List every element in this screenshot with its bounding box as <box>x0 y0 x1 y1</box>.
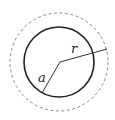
label-r: r <box>71 41 78 56</box>
inner-solid-circle <box>24 27 94 97</box>
label-a: a <box>38 70 46 85</box>
concentric-circles-diagram: r a <box>0 0 115 120</box>
radius-line-r <box>60 49 107 62</box>
